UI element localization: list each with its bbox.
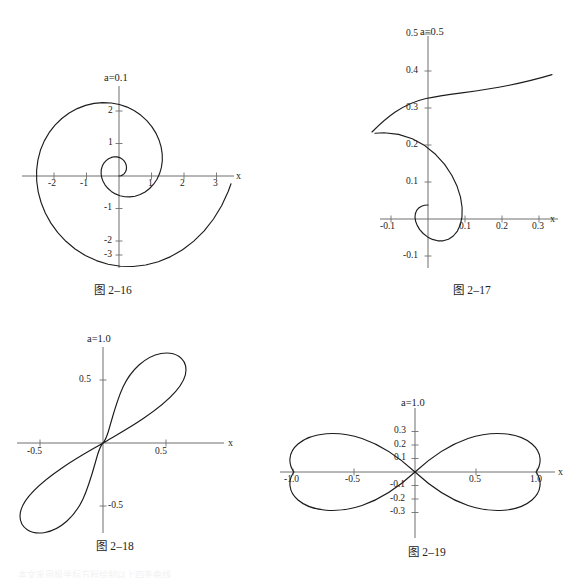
figure-2-16-x-tick-label: 1 bbox=[148, 178, 153, 188]
figure-2-19-plot bbox=[270, 390, 586, 550]
figure-2-18: a=1.0 -0.5 0.5 x 0.5 -0.5 图 2–18 bbox=[0, 325, 260, 582]
figure-2-17-x-tick-label: -0.1 bbox=[380, 221, 395, 231]
figure-2-17-y-tick-label: 0.3 bbox=[406, 102, 418, 112]
figure-2-19-x-tick-label: 0.5 bbox=[469, 474, 481, 484]
figure-2-19-y-tick-label: -0.2 bbox=[390, 493, 405, 503]
footer-faint-text: 本文采用极坐标方程绘制以上四条曲线 bbox=[18, 568, 538, 578]
figure-2-17-x-tick-label: 0.1 bbox=[459, 221, 471, 231]
figure-2-18-y-tick-label: -0.5 bbox=[108, 500, 123, 510]
figure-2-16-y-tick-label: -1 bbox=[104, 202, 112, 212]
figure-2-19-x-tick-label: -1.0 bbox=[284, 474, 299, 484]
figure-2-17-x-axis-name: x bbox=[550, 213, 555, 224]
figure-2-19-x-tick-label: 1.0 bbox=[530, 474, 542, 484]
logarithmic-spiral-outer-arm bbox=[372, 75, 552, 132]
figure-2-19-y-tick-label: 0.3 bbox=[394, 425, 406, 435]
figure-2-18-x-axis-name: x bbox=[228, 437, 233, 448]
figure-2-17-y-tick-label: 0.4 bbox=[406, 65, 418, 75]
figure-2-16: a=0.1 -2 -1 1 2 3 x 2 1 -1 -2 -3 图 2–16 bbox=[0, 0, 270, 310]
figure-2-17-x-tick-label: 0.2 bbox=[496, 221, 508, 231]
figure-2-19-y-tick-label: 0.2 bbox=[394, 439, 406, 449]
figure-2-18-x-tick-label: -0.5 bbox=[27, 446, 42, 456]
figure-2-16-y-tick-label: 1 bbox=[108, 137, 113, 147]
figure-2-16-x-tick-label: 2 bbox=[180, 178, 185, 188]
figure-2-16-y-tick-label: -3 bbox=[104, 249, 112, 259]
figure-2-18-x-tick-label: 0.5 bbox=[155, 446, 167, 456]
figure-2-16-x-tick-label: -1 bbox=[80, 178, 88, 188]
figure-2-19-x-tick-label: -0.5 bbox=[345, 474, 360, 484]
figure-2-18-y-tick-label: 0.5 bbox=[79, 374, 91, 384]
figure-2-16-x-axis-name: x bbox=[236, 170, 241, 181]
archimedean-spiral-curve bbox=[37, 103, 231, 267]
figure-2-16-caption: 图 2–16 bbox=[94, 281, 132, 297]
figure-2-17-y-tick-label: 0.2 bbox=[406, 139, 418, 149]
figure-2-17-y-tick-label: -0.1 bbox=[403, 250, 418, 260]
figure-2-19-y-tick-label: -0.1 bbox=[390, 479, 405, 489]
figure-2-17-y-tick-label: 0.1 bbox=[406, 176, 418, 186]
figure-2-19-x-axis-name: x bbox=[558, 466, 563, 477]
figure-2-19: a=1.0 -1.0 -0.5 0.5 1.0 x 0.3 0.2 0.1 -0… bbox=[270, 390, 586, 582]
figure-2-16-x-tick-label: -2 bbox=[48, 178, 56, 188]
figure-2-18-plot bbox=[0, 325, 260, 555]
figure-2-18-caption: 图 2–18 bbox=[96, 537, 134, 553]
figure-2-19-caption: 图 2–19 bbox=[408, 543, 446, 559]
figure-2-16-y-tick-label: -2 bbox=[104, 235, 112, 245]
tilted-lemniscate-curve-lower bbox=[20, 443, 103, 533]
figure-2-16-x-tick-label: 3 bbox=[213, 178, 218, 188]
figure-2-16-y-tick-label: 2 bbox=[108, 105, 113, 115]
figure-2-16-plot bbox=[0, 0, 270, 300]
figure-2-19-y-tick-label: 0.1 bbox=[394, 452, 406, 462]
tilted-lemniscate-curve bbox=[103, 353, 186, 443]
figure-2-17-caption: 图 2–17 bbox=[453, 281, 491, 297]
figure-2-17-y-tick-label: 0.5 bbox=[406, 28, 418, 38]
figure-2-19-y-tick-label: -0.3 bbox=[390, 506, 405, 516]
figure-2-17: a=0.5 -0.1 0.1 0.2 0.3 x 0.5 0.4 0.3 0.2… bbox=[380, 0, 586, 310]
figure-2-17-x-tick-label: 0.3 bbox=[532, 221, 544, 231]
